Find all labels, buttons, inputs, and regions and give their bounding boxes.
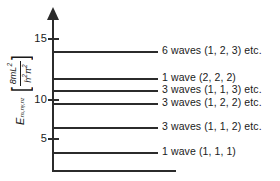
- up-arrow-icon: [47, 7, 59, 20]
- tick-label-15: 15: [34, 33, 47, 44]
- energy-level-line-111: [53, 152, 158, 154]
- energy-level-line-222: [53, 78, 158, 80]
- energy-level-line-113: [53, 90, 158, 92]
- x-axis-line: [52, 170, 176, 172]
- energy-level-line-123: [53, 51, 158, 53]
- energy-level-diagram: Enx,ny,nz [ 8mL2 h2π2 ] 15 10 5 6 waves …: [0, 0, 280, 181]
- energy-level-label-222: 1 wave (2, 2, 2): [162, 72, 236, 83]
- energy-level-line-122: [53, 103, 158, 105]
- energy-symbol-letter: E: [14, 118, 26, 125]
- energy-level-label-123: 6 waves (1, 2, 3) etc.: [162, 45, 262, 56]
- energy-level-label-111: 1 wave (1, 1, 1): [162, 146, 236, 157]
- tick-label-10: 10: [34, 94, 47, 105]
- energy-level-label-122: 3 waves (1, 2, 2) etc.: [162, 97, 262, 108]
- energy-symbol: Enx,ny,nz: [14, 98, 26, 125]
- tick-mark-10: [48, 99, 59, 101]
- unit-denominator: h2π2: [22, 62, 33, 84]
- y-axis-title: Enx,ny,nz [ 8mL2 h2π2 ]: [7, 5, 33, 125]
- energy-symbol-subscript: nx,ny,nz: [19, 98, 25, 117]
- energy-level-label-112: 3 waves (1, 1, 2) etc.: [162, 121, 262, 132]
- open-bracket-glyph: [: [8, 87, 32, 92]
- energy-level-line-112: [53, 127, 158, 129]
- y-axis-line: [52, 18, 54, 172]
- tick-label-5: 5: [41, 133, 47, 144]
- y-axis-unit-fraction: 8mL2 h2π2: [7, 61, 33, 86]
- close-bracket-glyph: ]: [8, 55, 32, 60]
- unit-numerator: 8mL2: [7, 61, 18, 86]
- energy-level-label-113: 3 waves (1, 1, 3) etc.: [162, 84, 262, 95]
- tick-mark-5: [48, 138, 59, 140]
- y-axis-unit-bracket: [ 8mL2 h2π2 ]: [8, 54, 32, 93]
- tick-mark-15: [48, 38, 59, 40]
